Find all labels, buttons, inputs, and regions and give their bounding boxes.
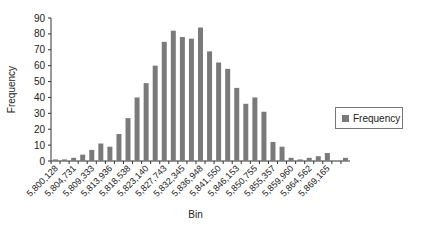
histogram-bar: [252, 97, 257, 161]
histogram-bar: [135, 97, 140, 161]
histogram-bar: [71, 158, 76, 161]
histogram-bar: [261, 112, 266, 161]
histogram-bar: [62, 159, 67, 161]
legend-swatch: [342, 115, 349, 122]
histogram-bar: [189, 39, 194, 161]
y-tick-label: 40: [34, 92, 46, 103]
histogram-bar: [198, 28, 203, 161]
histogram-bar: [98, 144, 103, 161]
y-tick-label: 20: [34, 124, 46, 135]
histogram-bar: [116, 134, 121, 161]
histogram-bar: [289, 158, 294, 161]
y-tick-label: 80: [34, 28, 46, 39]
histogram-bar: [180, 37, 185, 161]
y-tick-label: 70: [34, 44, 46, 55]
histogram-bar: [343, 158, 348, 161]
histogram-bar: [225, 69, 230, 161]
histogram-bar: [153, 66, 158, 161]
histogram-bar: [325, 153, 330, 161]
chart-legend: Frequency: [335, 107, 403, 129]
histogram-bar: [234, 88, 239, 161]
histogram-bar: [216, 62, 221, 161]
y-tick-label: 10: [34, 140, 46, 151]
y-tick-label: 30: [34, 108, 46, 119]
histogram-bar: [270, 142, 275, 161]
histogram-bar: [298, 159, 303, 161]
y-tick-label: 0: [39, 156, 45, 167]
legend-label: Frequency: [353, 113, 400, 124]
y-tick-label: 60: [34, 60, 46, 71]
histogram-bar: [162, 42, 167, 161]
y-tick-label: 90: [34, 13, 46, 24]
histogram-bar: [171, 31, 176, 161]
histogram-bar: [316, 156, 321, 161]
histogram-bar: [144, 83, 149, 161]
y-axis-title: Frequency: [6, 66, 17, 113]
histogram-bar: [80, 155, 85, 161]
histogram-bar: [53, 159, 58, 161]
histogram-bar: [243, 104, 248, 161]
histogram-bar: [89, 150, 94, 161]
x-axis-title: Bin: [188, 209, 202, 220]
y-tick-label: 50: [34, 76, 46, 87]
histogram-bar: [126, 118, 131, 161]
histogram-bar: [307, 158, 312, 161]
histogram-bar: [280, 147, 285, 161]
histogram-bar: [107, 147, 112, 161]
histogram-bar: [207, 51, 212, 161]
